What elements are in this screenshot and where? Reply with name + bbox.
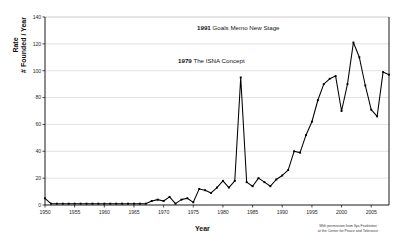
data-point-marker — [240, 76, 242, 78]
data-point-marker — [388, 74, 390, 76]
data-point-marker — [234, 180, 236, 182]
data-point-marker — [163, 200, 165, 202]
x-tick-label-1950: 1950 — [33, 209, 57, 215]
y-tick-label-80: 80 — [19, 94, 41, 100]
data-point-marker — [275, 179, 277, 181]
data-point-marker — [382, 71, 384, 73]
y-tick-label-100: 100 — [19, 68, 41, 74]
data-point-marker — [252, 185, 254, 187]
data-point-marker — [370, 109, 372, 111]
data-point-marker — [228, 187, 230, 189]
data-point-marker — [175, 203, 177, 205]
data-point-marker — [210, 192, 212, 194]
x-tick-label-1985: 1985 — [241, 209, 265, 215]
data-point-marker — [329, 78, 331, 80]
data-point-marker — [62, 203, 64, 205]
data-point-marker — [115, 203, 117, 205]
data-point-marker — [341, 110, 343, 112]
data-point-marker — [139, 203, 141, 205]
data-point-marker — [376, 115, 378, 117]
data-point-marker — [133, 203, 135, 205]
annotation-1979: 1979 The ISNA Concept — [178, 57, 245, 64]
data-point-marker — [157, 199, 159, 201]
data-point-marker — [347, 83, 349, 85]
data-point-marker — [68, 203, 70, 205]
data-point-marker — [204, 189, 206, 191]
data-point-marker — [198, 188, 200, 190]
data-point-marker — [127, 203, 129, 205]
data-point-marker — [74, 203, 76, 205]
data-point-marker — [352, 42, 354, 44]
data-point-marker — [222, 180, 224, 182]
data-point-marker — [151, 200, 153, 202]
y-tick-label-60: 60 — [19, 121, 41, 127]
x-axis-title: Year — [195, 225, 210, 232]
data-point-marker — [80, 203, 82, 205]
data-point-marker — [92, 203, 94, 205]
credit-note: With permission from Ilya Feoktistov at … — [300, 224, 396, 233]
x-tick-label-1995: 1995 — [300, 209, 324, 215]
x-tick-label-1980: 1980 — [211, 209, 235, 215]
data-point-marker — [317, 99, 319, 101]
data-point-marker — [364, 85, 366, 87]
data-point-marker — [103, 203, 105, 205]
x-tick-label-2005: 2005 — [359, 209, 383, 215]
annotation-1979-year: 1979 — [178, 57, 192, 64]
x-tick-label-1965: 1965 — [122, 209, 146, 215]
y-tick-label-120: 120 — [19, 41, 41, 47]
x-tick-label-1975: 1975 — [181, 209, 205, 215]
data-point-marker — [192, 201, 194, 203]
data-point-marker — [293, 150, 295, 152]
data-point-marker — [311, 121, 313, 123]
chart-canvas: Rate # Founded / Year Year 1991 Goals Me… — [0, 0, 399, 250]
x-tick-label-1960: 1960 — [92, 209, 116, 215]
y-tick-label-20: 20 — [19, 175, 41, 181]
data-point-marker — [335, 75, 337, 77]
data-point-marker — [109, 203, 111, 205]
data-point-marker — [246, 181, 248, 183]
plot-background — [45, 17, 389, 205]
annotation-1991-text: Goals Memo New Stage — [213, 24, 280, 31]
credit-line-2: at the Center for Peace and Tolerance — [300, 229, 396, 234]
annotation-1991: 1991 Goals Memo New Stage — [197, 24, 280, 31]
data-point-marker — [281, 175, 283, 177]
data-point-marker — [264, 181, 266, 183]
annotation-1979-text: The ISNA Concept — [193, 57, 244, 64]
x-tick-label-1955: 1955 — [63, 209, 87, 215]
data-point-marker — [299, 152, 301, 154]
data-point-marker — [50, 203, 52, 205]
data-point-marker — [287, 169, 289, 171]
x-tick-label-1970: 1970 — [152, 209, 176, 215]
data-point-marker — [269, 185, 271, 187]
data-point-marker — [121, 203, 123, 205]
data-point-marker — [145, 203, 147, 205]
data-point-marker — [97, 203, 99, 205]
x-tick-label-2000: 2000 — [330, 209, 354, 215]
data-point-marker — [180, 199, 182, 201]
data-point-marker — [186, 197, 188, 199]
data-point-marker — [258, 177, 260, 179]
data-point-marker — [216, 187, 218, 189]
annotation-1991-year: 1991 — [197, 24, 211, 31]
data-point-marker — [86, 203, 88, 205]
x-tick-label-1990: 1990 — [270, 209, 294, 215]
y-tick-label-0: 0 — [19, 202, 41, 208]
data-point-marker — [358, 56, 360, 58]
data-point-marker — [305, 134, 307, 136]
y-tick-label-140: 140 — [19, 14, 41, 20]
data-point-marker — [323, 83, 325, 85]
data-point-marker — [56, 203, 58, 205]
y-tick-label-40: 40 — [19, 148, 41, 154]
data-point-marker — [44, 197, 46, 199]
data-point-marker — [169, 196, 171, 198]
